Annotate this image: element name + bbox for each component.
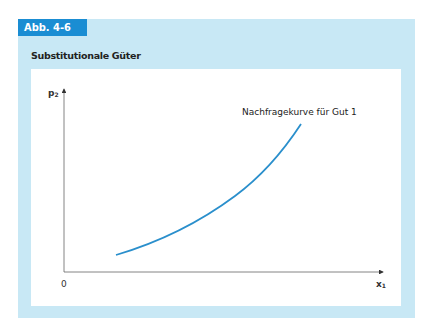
y-axis-label: p2 — [48, 88, 59, 98]
demand-curve — [116, 124, 301, 255]
chart-svg: p2 x1 0 Nachfragekurve für Gut 1 — [0, 0, 432, 334]
x-axis-label: x1 — [376, 279, 386, 289]
origin-label: 0 — [61, 279, 67, 289]
curve-label: Nachfragekurve für Gut 1 — [242, 107, 357, 117]
